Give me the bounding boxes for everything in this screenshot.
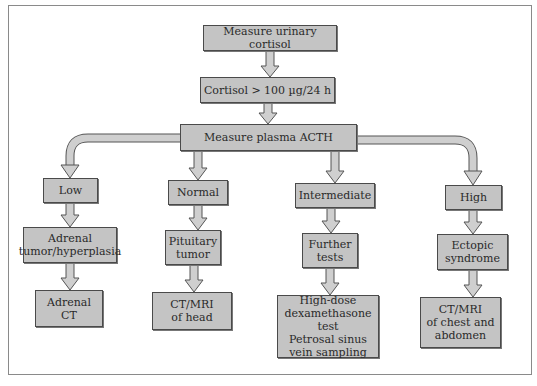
arrow-intermediate-to-further: [322, 208, 340, 233]
node-cortisol-threshold: Cortisol > 100 µg/24 h: [200, 77, 335, 103]
node-ct-mri-head: CT/MRI of head: [152, 292, 232, 330]
arrow-normal-to-pituitary: [189, 205, 207, 230]
node-adrenal-tumor: Adrenal tumor/hyperplasia: [23, 227, 117, 263]
node-label: Normal: [177, 186, 219, 199]
node-label: Further tests: [308, 238, 351, 264]
node-label: Ectopic syndrome: [445, 239, 500, 265]
node-label: Low: [59, 184, 82, 197]
node-adrenal-ct: Adrenal CT: [35, 290, 103, 327]
node-label: Adrenal CT: [47, 296, 91, 322]
node-label: Cortisol > 100 µg/24 h: [204, 84, 331, 97]
node-further-tests: Further tests: [302, 233, 358, 268]
arrow-acth-to-normal: [189, 151, 207, 180]
arrow-low-to-adrenal-tumor: [61, 203, 79, 227]
node-label: CT/MRI of head: [170, 298, 213, 324]
node-label: Measure plasma ACTH: [204, 131, 333, 144]
node-ct-mri-chest-abdomen: CT/MRI of chest and abdomen: [420, 297, 501, 348]
arrow-acth-to-high: [464, 171, 482, 185]
node-label: High-dose dexamethasone test Petrosal si…: [278, 294, 378, 359]
arrow-acth-to-low: [61, 165, 79, 178]
arrow-start-to-cortisol: [261, 51, 279, 77]
node-label: Pituitary tumor: [169, 235, 217, 261]
node-measure-plasma-acth: Measure plasma ACTH: [180, 124, 357, 151]
node-pituitary-tumor: Pituitary tumor: [165, 230, 221, 265]
node-high-dose-dexamethasone: High-dose dexamethasone test Petrosal si…: [277, 295, 379, 358]
node-label: High: [460, 191, 487, 204]
arrow-pituitary-to-ct-head: [185, 265, 203, 292]
node-label: Adrenal tumor/hyperplasia: [19, 232, 121, 258]
node-acth-high: High: [445, 185, 502, 210]
arrow-further-to-high-dose: [321, 268, 339, 295]
node-label: Measure urinary cortisol: [204, 25, 336, 51]
node-acth-normal: Normal: [168, 180, 228, 205]
arrow-acth-to-intermediate: [326, 151, 344, 183]
node-label: Intermediate: [299, 189, 372, 202]
arrow-adrenal-tumor-to-ct: [61, 263, 79, 290]
arrow-cortisol-to-acth: [259, 103, 277, 124]
arrow-ectopic-to-ct-chest: [464, 270, 482, 297]
node-acth-intermediate: Intermediate: [295, 183, 375, 208]
node-measure-urinary-cortisol: Measure urinary cortisol: [203, 25, 337, 51]
arrow-high-to-ectopic: [464, 210, 482, 234]
node-ectopic-syndrome: Ectopic syndrome: [437, 234, 508, 270]
node-label: CT/MRI of chest and abdomen: [426, 303, 494, 342]
node-acth-low: Low: [43, 178, 98, 203]
